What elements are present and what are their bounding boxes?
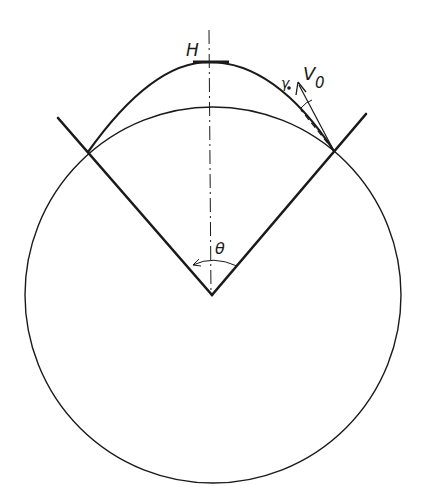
vertical-axis: [209, 30, 211, 295]
velocity-vector: [299, 85, 334, 151]
cone-left-arm: [58, 118, 212, 295]
trajectory-diagram: H γ V 0 θ: [0, 0, 426, 503]
label-H: H: [186, 40, 199, 60]
cone-right-arm: [212, 114, 366, 295]
label-V-subscript: 0: [315, 74, 325, 92]
label-theta: θ: [215, 239, 225, 258]
label-gamma: γ: [281, 75, 290, 91]
cone-angle-arc: [193, 260, 237, 266]
